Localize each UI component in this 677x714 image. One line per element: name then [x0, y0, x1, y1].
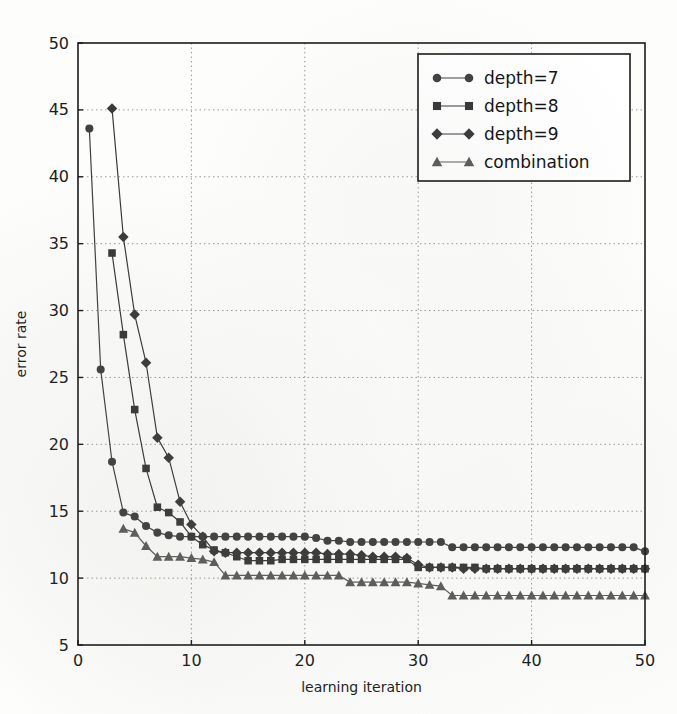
data-point: [176, 518, 184, 526]
data-point: [266, 547, 276, 557]
legend-marker: [433, 102, 441, 110]
axis-titles: learning iterationerror rate: [13, 311, 422, 695]
data-point: [141, 357, 151, 367]
data-point: [550, 543, 558, 551]
legend-marker: [465, 102, 473, 110]
y-tick-label: 50: [49, 34, 69, 53]
data-point: [505, 543, 513, 551]
y-tick-label: 15: [49, 502, 69, 521]
chart-legend: depth=7depth=8depth=9combination: [418, 54, 630, 181]
data-point: [120, 331, 128, 339]
data-point: [539, 543, 547, 551]
x-tick-label: 10: [181, 651, 201, 670]
data-point: [255, 533, 263, 541]
legend-marker: [433, 74, 442, 83]
data-point: [131, 406, 139, 414]
data-point: [244, 557, 252, 565]
data-point: [357, 538, 365, 546]
data-point: [118, 524, 128, 533]
legend-marker: [465, 74, 474, 83]
data-point: [323, 537, 331, 545]
y-tick-label: 40: [49, 167, 69, 186]
data-point: [131, 513, 139, 521]
data-point: [346, 538, 354, 546]
y-tick-label: 5: [59, 636, 69, 655]
data-point: [85, 125, 93, 133]
data-point: [301, 533, 309, 541]
data-point: [154, 503, 162, 511]
data-point: [175, 497, 185, 507]
data-point: [584, 543, 592, 551]
data-point: [403, 538, 411, 546]
data-point: [335, 537, 343, 545]
data-point: [369, 538, 377, 546]
data-point: [596, 543, 604, 551]
data-point: [460, 543, 468, 551]
data-point: [244, 533, 252, 541]
x-tick-label: 20: [295, 651, 315, 670]
data-point: [118, 232, 128, 242]
data-point: [199, 541, 207, 549]
data-point: [163, 452, 173, 462]
data-point: [130, 528, 140, 537]
data-point: [607, 543, 615, 551]
x-axis-title: learning iteration: [301, 679, 422, 695]
legend-label: combination: [484, 152, 590, 172]
data-point: [426, 538, 434, 546]
data-point: [153, 529, 161, 537]
data-point: [289, 533, 297, 541]
y-tick-label: 30: [49, 301, 69, 320]
data-point: [210, 533, 218, 541]
chart-figure: 010203040505101520253035404550 learning …: [0, 0, 677, 714]
data-point: [437, 538, 445, 546]
data-point: [188, 533, 196, 541]
data-point: [142, 522, 150, 530]
data-point: [414, 538, 422, 546]
data-point: [119, 509, 127, 517]
legend-label: depth=8: [484, 96, 559, 116]
data-point: [448, 543, 456, 551]
y-tick-label: 35: [49, 234, 69, 253]
data-point: [516, 543, 524, 551]
data-point: [267, 533, 275, 541]
data-point: [618, 543, 626, 551]
data-point: [152, 432, 162, 442]
data-point: [97, 365, 105, 373]
data-point: [562, 543, 570, 551]
x-tick-label: 30: [408, 651, 428, 670]
data-point: [573, 543, 581, 551]
x-tick-label: 40: [521, 651, 541, 670]
chart-canvas: 010203040505101520253035404550 learning …: [0, 0, 677, 714]
data-point: [129, 309, 139, 319]
data-point: [256, 557, 264, 565]
data-point: [380, 538, 388, 546]
y-axis-title: error rate: [13, 311, 29, 378]
data-point: [482, 543, 490, 551]
data-point: [107, 103, 117, 113]
data-point: [392, 538, 400, 546]
data-point: [165, 509, 173, 517]
data-point: [108, 249, 116, 257]
legend-label: depth=9: [484, 124, 559, 144]
data-point: [494, 543, 502, 551]
data-point: [471, 543, 479, 551]
x-tick-label: 0: [73, 651, 83, 670]
data-point: [267, 557, 275, 565]
data-point: [165, 531, 173, 539]
y-tick-label: 25: [49, 368, 69, 387]
data-point: [278, 533, 286, 541]
x-tick-label: 50: [635, 651, 655, 670]
data-point: [312, 534, 320, 542]
data-point: [528, 543, 536, 551]
data-point: [233, 533, 241, 541]
data-point: [176, 533, 184, 541]
y-tick-label: 10: [49, 569, 69, 588]
series-depth-7: [85, 125, 649, 556]
y-tick-label: 45: [49, 100, 69, 119]
data-point: [142, 465, 150, 473]
data-point: [254, 547, 264, 557]
y-tick-label: 20: [49, 435, 69, 454]
data-point: [630, 543, 638, 551]
data-point: [243, 547, 253, 557]
series-line: [89, 129, 645, 552]
